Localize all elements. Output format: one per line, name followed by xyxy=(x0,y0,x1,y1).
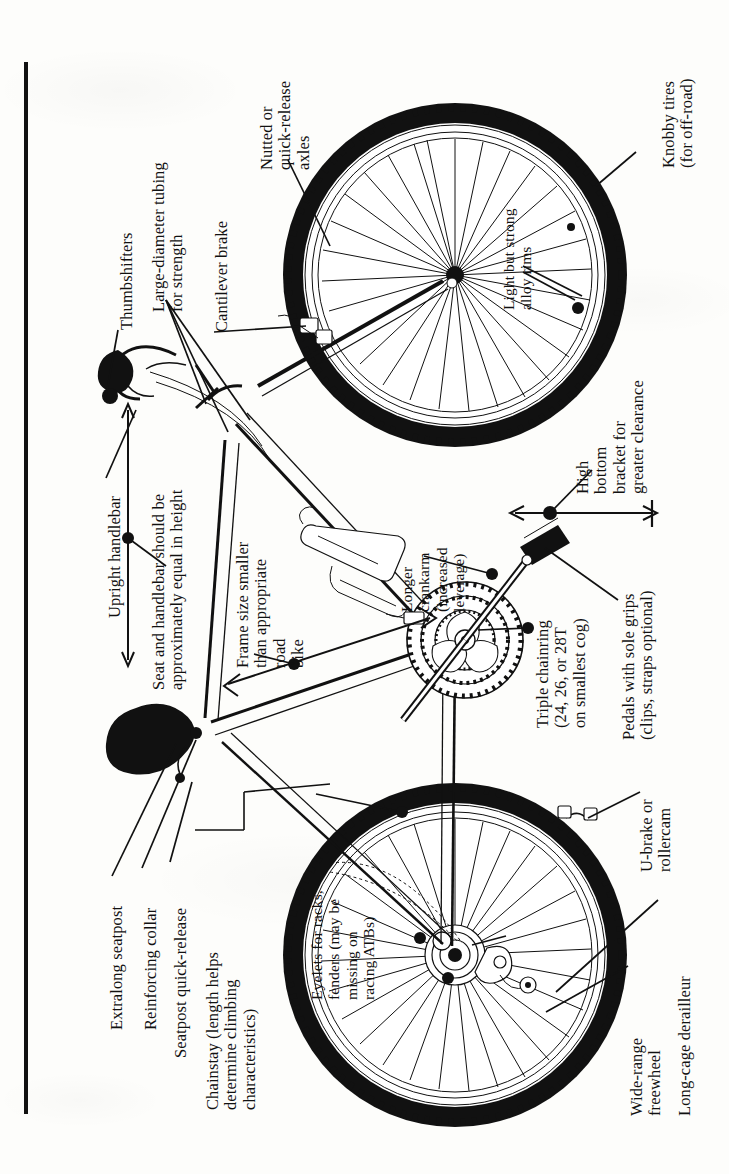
pedal-art xyxy=(520,518,570,565)
label-nutted-axles: Nutted or quick-release axles xyxy=(258,81,313,170)
label-u-brake: U-brake or rollercam xyxy=(638,799,675,872)
label-upright-handlebar: Upright handlebar xyxy=(106,496,124,618)
label-longer-crankarm: Longer crankarm (increased leverage) xyxy=(398,547,467,612)
label-knobby-tires: Knobby tires (for off-road) xyxy=(660,78,697,168)
label-eyelets: Eyelets for racks, fenders (may be missi… xyxy=(308,890,377,1000)
label-reinforcing-collar: Reinforcing collar xyxy=(142,908,160,1030)
label-seatpost-quick-release: Seatpost quick-release xyxy=(172,908,190,1058)
water-bottle-group xyxy=(299,507,408,617)
label-pedals: Pedals with sole grips (clips, straps op… xyxy=(620,591,657,741)
figure-page: Thumbshifters Large-diameter tubing for … xyxy=(0,0,729,1174)
label-thumbshifters: Thumbshifters xyxy=(118,232,136,330)
label-alloy-rims: Light but strong alloy rims xyxy=(500,209,535,311)
label-chainstay: Chainstay (length helps determine climbi… xyxy=(204,952,259,1110)
label-high-bottom-bracket: High bottom bracket for greater clearanc… xyxy=(574,380,648,494)
label-extralong-seatpost: Extralong seatpost xyxy=(108,906,126,1030)
label-triple-chainring: Triple chainring (24, 26, or 28T on smal… xyxy=(534,618,589,728)
rear-brake-art xyxy=(558,806,597,820)
label-cantilever-brake: Cantilever brake xyxy=(213,221,231,332)
label-seat-handlebar-height: Seat and handlebar should be approximate… xyxy=(150,490,187,690)
label-wide-range-freewheel: Wide-range freewheel xyxy=(628,1038,665,1116)
label-frame-size: Frame size smaller than appropriate road… xyxy=(234,542,308,668)
label-large-diameter-tubing: Large-diameter tubing for strength xyxy=(150,162,187,312)
label-long-cage-derailleur: Long-cage derailleur xyxy=(676,976,694,1116)
